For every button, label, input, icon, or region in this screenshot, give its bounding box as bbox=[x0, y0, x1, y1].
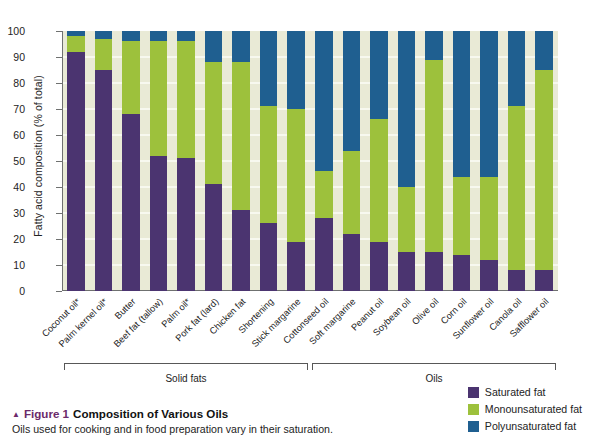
y-tick-mark bbox=[56, 83, 62, 84]
y-tick-mark bbox=[56, 161, 62, 162]
y-tick-label: 80 bbox=[0, 77, 25, 89]
y-tick-label: 60 bbox=[0, 129, 25, 141]
bar-segment-saturated bbox=[343, 234, 361, 291]
legend-swatch bbox=[468, 404, 479, 415]
caption-title-row: ▲ Figure 1 Composition of Various Oils bbox=[12, 407, 432, 420]
y-tick-label: 90 bbox=[0, 51, 25, 63]
bar-segment-monounsaturated bbox=[480, 177, 498, 260]
legend-label: Polyunsaturated fat bbox=[485, 420, 576, 432]
legend: Saturated fatMonounsaturated fatPolyunsa… bbox=[468, 386, 582, 432]
y-tick-label: 0 bbox=[0, 285, 25, 297]
bar-segment-saturated bbox=[287, 242, 305, 291]
group-bracket-label: Oils bbox=[312, 373, 556, 384]
y-tick-mark bbox=[56, 135, 62, 136]
bar-column[interactable] bbox=[205, 31, 223, 291]
bar-segment-monounsaturated bbox=[508, 106, 526, 270]
bar-segment-monounsaturated bbox=[95, 39, 113, 70]
y-tick-mark bbox=[56, 213, 62, 214]
bar-segment-polyunsaturated bbox=[232, 31, 250, 62]
bar-segment-monounsaturated bbox=[260, 106, 278, 223]
bar-column[interactable] bbox=[453, 31, 471, 291]
bar-column[interactable] bbox=[95, 31, 113, 291]
bar-segment-monounsaturated bbox=[177, 41, 195, 158]
bar-segment-saturated bbox=[260, 223, 278, 291]
y-tick-mark bbox=[56, 57, 62, 58]
bar-column[interactable] bbox=[343, 31, 361, 291]
bar-segment-saturated bbox=[150, 156, 168, 291]
bar-segment-polyunsaturated bbox=[260, 31, 278, 106]
bar-segment-saturated bbox=[535, 270, 553, 291]
bar-segment-monounsaturated bbox=[370, 119, 388, 241]
bar-segment-monounsaturated bbox=[150, 41, 168, 155]
bar-segment-saturated bbox=[398, 252, 416, 291]
figure-caption: ▲ Figure 1 Composition of Various Oils O… bbox=[12, 407, 432, 435]
bar-column[interactable] bbox=[122, 31, 140, 291]
bar-segment-monounsaturated bbox=[232, 62, 250, 210]
y-tick-mark bbox=[56, 239, 62, 240]
bar-column[interactable] bbox=[260, 31, 278, 291]
bar-column[interactable] bbox=[370, 31, 388, 291]
legend-swatch bbox=[468, 421, 479, 432]
y-tick-label: 100 bbox=[0, 25, 25, 37]
bar-column[interactable] bbox=[287, 31, 305, 291]
bar-column[interactable] bbox=[177, 31, 195, 291]
group-bracket-label: Solid fats bbox=[64, 373, 308, 384]
legend-label: Monounsaturated fat bbox=[485, 403, 582, 415]
bar-segment-monounsaturated bbox=[398, 187, 416, 252]
legend-item: Polyunsaturated fat bbox=[468, 420, 582, 432]
y-axis-title: Fatty acid composition (% of total) bbox=[32, 26, 44, 286]
bar-column[interactable] bbox=[425, 31, 443, 291]
group-bracket bbox=[64, 363, 308, 370]
bar-segment-saturated bbox=[205, 184, 223, 291]
bar-column[interactable] bbox=[315, 31, 333, 291]
bar-segment-monounsaturated bbox=[205, 62, 223, 184]
bar-segment-saturated bbox=[232, 210, 250, 291]
bar-column[interactable] bbox=[480, 31, 498, 291]
bar-segment-monounsaturated bbox=[287, 109, 305, 242]
bar-column[interactable] bbox=[67, 31, 85, 291]
bar-column[interactable] bbox=[232, 31, 250, 291]
y-tick-label: 50 bbox=[0, 155, 25, 167]
bar-segment-polyunsaturated bbox=[95, 31, 113, 39]
bar-column[interactable] bbox=[398, 31, 416, 291]
figure-subtitle: Oils used for cooking and in food prepar… bbox=[12, 423, 432, 435]
bar-segment-saturated bbox=[177, 158, 195, 291]
bar-segment-polyunsaturated bbox=[453, 31, 471, 177]
bar-segment-monounsaturated bbox=[315, 171, 333, 218]
figure-title: Composition of Various Oils bbox=[73, 407, 228, 420]
y-tick-label: 40 bbox=[0, 181, 25, 193]
bar-segment-monounsaturated bbox=[453, 177, 471, 255]
y-tick-mark bbox=[56, 291, 62, 292]
bar-segment-polyunsaturated bbox=[370, 31, 388, 119]
triangle-icon: ▲ bbox=[12, 411, 20, 419]
legend-swatch bbox=[468, 387, 479, 398]
figure-root: Fatty acid composition (% of total) 0102… bbox=[0, 0, 590, 441]
bar-segment-polyunsaturated bbox=[177, 31, 195, 41]
bar-segment-polyunsaturated bbox=[315, 31, 333, 171]
y-tick-mark bbox=[56, 31, 62, 32]
bar-segment-polyunsaturated bbox=[535, 31, 553, 70]
bar-segment-polyunsaturated bbox=[205, 31, 223, 62]
bar-segment-saturated bbox=[122, 114, 140, 291]
bar-column[interactable] bbox=[508, 31, 526, 291]
bar-segment-polyunsaturated bbox=[480, 31, 498, 177]
y-tick-label: 30 bbox=[0, 207, 25, 219]
bar-column[interactable] bbox=[150, 31, 168, 291]
bar-segment-monounsaturated bbox=[343, 151, 361, 234]
bar-column[interactable] bbox=[535, 31, 553, 291]
bar-segment-polyunsaturated bbox=[287, 31, 305, 109]
y-tick-label: 70 bbox=[0, 103, 25, 115]
bar-segment-saturated bbox=[67, 52, 85, 291]
y-tick-mark bbox=[56, 109, 62, 110]
legend-item: Monounsaturated fat bbox=[468, 403, 582, 415]
bar-segment-saturated bbox=[370, 242, 388, 291]
bar-segment-saturated bbox=[315, 218, 333, 291]
legend-item: Saturated fat bbox=[468, 386, 582, 398]
y-tick-label: 10 bbox=[0, 259, 25, 271]
bar-segment-saturated bbox=[508, 270, 526, 291]
bar-segment-polyunsaturated bbox=[122, 31, 140, 41]
bar-segment-polyunsaturated bbox=[398, 31, 416, 187]
bar-segment-monounsaturated bbox=[67, 36, 85, 52]
bar-segment-polyunsaturated bbox=[150, 31, 168, 41]
y-tick-mark bbox=[56, 187, 62, 188]
